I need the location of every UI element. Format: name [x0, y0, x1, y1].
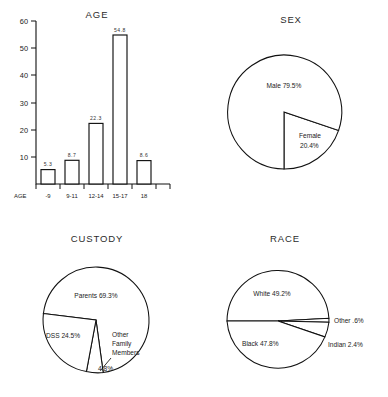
age-cat-3: 15-17	[112, 193, 127, 199]
custody-label-other-line-1: Other	[112, 331, 129, 338]
age-bar-0	[41, 170, 55, 184]
age-cat-2: 12-14	[88, 193, 104, 199]
figure-sheet: AGE 10 20 30 40 50 60	[0, 0, 388, 397]
age-chart-title: AGE	[0, 9, 194, 20]
age-ytick-10: 10	[20, 153, 28, 162]
custody-label-other-line-2: Family	[112, 340, 132, 348]
age-bar-value-2: 22.3	[90, 115, 102, 121]
panel-custody: CUSTODY Parents 69.3% DSS 24.5% Other Fa…	[0, 225, 194, 397]
race-label-black: Black 47.8%	[242, 340, 279, 347]
age-y-axis: 10 20 30 40 50 60	[20, 17, 36, 162]
age-cat-1: 9-11	[66, 193, 77, 199]
age-bar-1	[65, 160, 79, 184]
age-ytick-20: 20	[20, 126, 28, 135]
custody-label-other-line-3: Members	[112, 349, 140, 356]
age-bar-value-4: 8.6	[140, 152, 149, 158]
sex-label-female: Female	[299, 132, 321, 139]
race-chart-title: RACE	[188, 233, 382, 244]
custody-chart-title: CUSTODY	[0, 233, 194, 244]
age-bar-value-1: 8.7	[68, 152, 77, 158]
age-cat-0: -9	[45, 193, 50, 199]
panel-race: RACE White 49.2% Black 47.8% Other .6% I…	[194, 225, 388, 397]
age-bar-value-3: 54.8	[114, 27, 126, 33]
age-axis-name: AGE	[14, 193, 27, 199]
panel-age: AGE 10 20 30 40 50 60	[0, 0, 194, 205]
age-x-ticks	[36, 184, 170, 189]
race-pie-chart: White 49.2% Black 47.8% Other .6% Indian…	[194, 225, 388, 397]
panel-sex: SEX Male 79.5% Female 20.4%	[194, 0, 388, 205]
age-bar-chart: 10 20 30 40 50 60	[0, 0, 194, 205]
race-label-white: White 49.2%	[253, 290, 291, 297]
race-label-other: Other .6%	[334, 317, 364, 324]
age-bar-4	[137, 161, 151, 184]
custody-pie-chart: Parents 69.3% DSS 24.5% Other Family Mem…	[0, 225, 194, 397]
race-label-indian: Indian 2.4%	[328, 341, 363, 348]
custody-label-dss: DSS 24.5%	[46, 332, 80, 339]
sex-label-male: Male 79.5%	[267, 82, 302, 89]
age-bar-value-0: 5.3	[44, 161, 53, 167]
sex-label-female-value: 20.4%	[300, 142, 319, 149]
age-cat-4: 18	[141, 193, 148, 199]
custody-label-other-value: 4.8%	[98, 365, 113, 372]
age-ytick-30: 30	[20, 99, 28, 108]
age-bar-3	[113, 35, 127, 184]
sex-chart-title: SEX	[194, 14, 388, 25]
sex-pie-chart: Male 79.5% Female 20.4%	[194, 0, 388, 205]
custody-label-parents: Parents 69.3%	[74, 292, 117, 299]
custody-slice-dss	[43, 314, 96, 372]
age-bar-2	[89, 123, 103, 184]
age-ytick-40: 40	[20, 71, 28, 80]
age-ytick-50: 50	[20, 44, 28, 53]
